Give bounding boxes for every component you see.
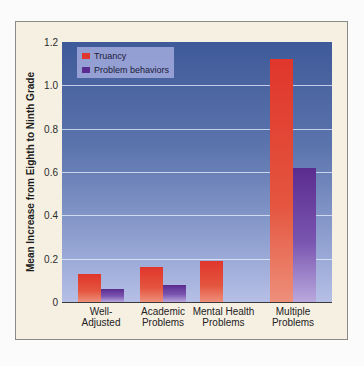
x-tick-label: MultipleProblems — [272, 306, 314, 328]
plot-area — [62, 42, 332, 303]
truancy-swatch-icon — [82, 53, 90, 59]
y-tick: 0.6 — [28, 167, 58, 178]
bar-problem-behaviors — [101, 289, 124, 302]
y-tick: 0.4 — [28, 210, 58, 221]
bar-truancy — [78, 274, 101, 302]
legend-label: Truancy — [94, 51, 126, 61]
bar-problem-behaviors — [163, 285, 186, 302]
y-tick: 1.0 — [28, 80, 58, 91]
y-tick: 0.2 — [28, 254, 58, 265]
y-tick: 0.8 — [28, 124, 58, 135]
legend: Truancy Problem behaviors — [77, 47, 174, 78]
x-tick-label: Mental HealthProblems — [193, 306, 255, 328]
bar-truancy — [270, 59, 293, 302]
bar-truancy — [200, 261, 223, 302]
legend-item-problem-behaviors: Problem behaviors — [82, 65, 169, 75]
problem-behaviors-swatch-icon — [82, 67, 90, 73]
x-tick-label: Well-Adjusted — [82, 306, 121, 328]
y-tick: 1.2 — [28, 37, 58, 48]
bar-problem-behaviors — [293, 168, 316, 302]
x-tick-label: AcademicProblems — [141, 306, 185, 328]
legend-item-truancy: Truancy — [82, 51, 126, 61]
y-tick: 0 — [28, 297, 58, 308]
bar-truancy — [140, 267, 163, 302]
legend-label: Problem behaviors — [94, 65, 169, 75]
